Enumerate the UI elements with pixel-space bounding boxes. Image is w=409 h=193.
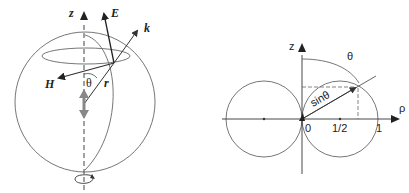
e-label: E <box>110 6 119 20</box>
right-radiation-pattern: ρ z θ sinθ 0 1/2 1 <box>222 40 405 174</box>
rho-axis-arrowhead <box>391 115 400 123</box>
h-label: H <box>44 77 55 91</box>
theta-arc-right <box>302 59 359 83</box>
latitude-ring <box>42 48 130 64</box>
k-label: k <box>144 21 150 35</box>
tick-1-label: 1 <box>376 122 382 134</box>
right-z-label: z <box>289 40 295 52</box>
z-axis-arrowhead <box>80 11 88 20</box>
left-dipole-figure: z E k H θ r <box>15 6 155 190</box>
tick-half-label: 1/2 <box>332 122 347 134</box>
sphere-meridian <box>85 35 113 170</box>
right-theta-label: θ <box>347 50 353 62</box>
rotation-symmetry-icon <box>75 174 95 183</box>
k-vector <box>114 31 137 63</box>
r-label: r <box>104 76 109 90</box>
dipole-icon <box>79 89 89 119</box>
theta-label: θ <box>86 76 92 90</box>
dipole-arrow-down-icon <box>79 110 89 119</box>
sin-theta-label: sinθ <box>308 88 331 108</box>
rho-label: ρ <box>399 102 405 114</box>
dipole-arrow-up-icon <box>79 89 89 98</box>
right-z-axis-arrowhead <box>298 43 306 52</box>
diagram-canvas: z E k H θ r <box>0 0 409 193</box>
z-label: z <box>68 6 74 20</box>
tick-0-label: 0 <box>305 122 311 134</box>
